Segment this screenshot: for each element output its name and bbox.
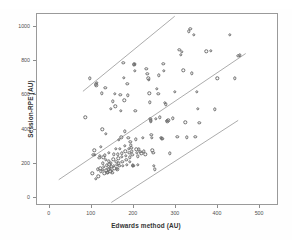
x-axis-tick-mark [91,205,92,208]
x-axis-title: Edwards method (AU) [0,222,292,229]
reference-line-upper-limit-of-agreement [83,16,175,91]
x-axis-tick-mark [259,205,260,208]
y-axis-tick-label: 600 [4,91,30,97]
reference-line-mean-bias [59,54,246,180]
plot-canvas [37,14,277,204]
scan-noise-band [0,0,292,9]
scatter-plot-figure: Session-RPE (AU) 02004006008001000 01002… [0,0,292,240]
x-axis-tick-label: 0 [47,210,50,216]
x-axis-tick-label: 100 [86,210,95,216]
y-axis-tick-label: 400 [4,126,30,132]
y-axis-tick-label: 0 [4,194,30,200]
plot-area [36,13,278,205]
y-axis-tick-label: 800 [4,57,30,63]
x-axis-tick-mark [217,205,218,208]
y-axis-title-container: Session-RPE (AU) [8,13,22,205]
y-axis-tick-label: 200 [4,160,30,166]
x-axis-tick-mark [175,205,176,208]
x-axis-tick-label: 200 [128,210,137,216]
x-axis-tick-mark [49,205,50,208]
reference-lines-group [59,16,246,202]
y-axis-tick-label: 1000 [4,23,30,29]
x-axis-tick-label: 300 [170,210,179,216]
x-axis-tick-mark [133,205,134,208]
x-axis-tick-label: 400 [213,210,222,216]
x-axis-tick-label: 500 [255,210,264,216]
